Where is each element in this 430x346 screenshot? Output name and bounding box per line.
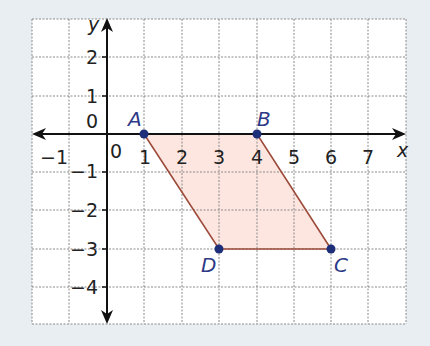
svg-text:4: 4 <box>251 146 263 168</box>
svg-text:5: 5 <box>288 146 300 168</box>
svg-text:−4: −4 <box>70 276 98 298</box>
label-c: C <box>334 253 348 277</box>
svg-text:0: 0 <box>110 140 122 162</box>
label-d: D <box>201 253 216 277</box>
label-a: A <box>126 107 142 131</box>
svg-text:−2: −2 <box>70 199 98 221</box>
svg-text:0: 0 <box>86 110 98 132</box>
svg-text:2: 2 <box>86 46 98 68</box>
svg-text:3: 3 <box>213 146 225 168</box>
svg-text:1: 1 <box>86 85 98 107</box>
svg-text:7: 7 <box>362 146 374 168</box>
svg-text:−3: −3 <box>70 238 98 260</box>
svg-text:1: 1 <box>139 146 151 168</box>
x-axis-label: x <box>396 139 409 161</box>
svg-text:−1: −1 <box>40 146 68 168</box>
svg-text:−1: −1 <box>70 160 98 182</box>
svg-text:2: 2 <box>176 146 188 168</box>
label-b: B <box>257 107 271 131</box>
svg-text:6: 6 <box>325 146 337 168</box>
y-axis-label: y <box>87 13 100 35</box>
coordinate-plane: x y −1 0 1 2 3 4 5 6 7 2 1 0 −1 −2 −3 −4… <box>0 0 430 346</box>
